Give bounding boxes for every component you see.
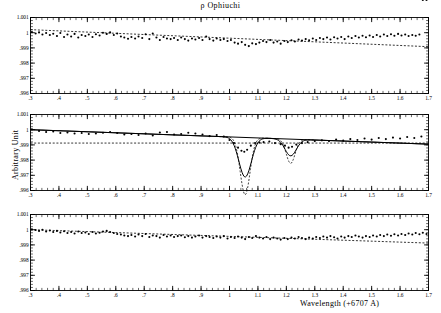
data-point: [321, 139, 323, 141]
data-point: [347, 235, 349, 237]
x-tick-label: 1: [220, 95, 240, 101]
data-point: [308, 39, 310, 41]
data-point: [392, 137, 394, 139]
data-point: [228, 139, 230, 141]
data-point: [258, 42, 260, 44]
data-point: [400, 233, 402, 235]
data-point: [173, 37, 175, 39]
x-tick-label: 1.2: [276, 292, 296, 298]
data-point: [177, 39, 179, 41]
x-axis-label: Wavelength (+6707 A): [300, 299, 379, 308]
figure-root: ρ Ophiuchi 1.0011.999.998.997.996.3.4.5.…: [0, 0, 441, 313]
data-point: [365, 36, 367, 38]
data-point: [123, 134, 125, 136]
x-tick-label: 1: [220, 292, 240, 298]
data-point: [81, 34, 83, 36]
x-tick-label: .9: [191, 95, 211, 101]
data-point: [102, 230, 104, 232]
data-point: [209, 38, 211, 40]
data-point: [418, 233, 420, 235]
data-point: [356, 139, 358, 141]
data-point: [273, 237, 275, 239]
x-tick-label: .4: [49, 292, 69, 298]
data-point: [241, 237, 243, 239]
data-point: [420, 135, 422, 137]
data-point: [328, 140, 330, 142]
data-point: [113, 232, 115, 234]
data-point: [102, 32, 104, 34]
y-tick-label: 1: [26, 127, 29, 133]
x-tick-label: .7: [134, 192, 154, 198]
data-point: [127, 235, 129, 237]
data-point: [326, 37, 328, 39]
data-point: [120, 234, 122, 236]
data-point: [237, 147, 239, 149]
data-point: [130, 36, 132, 38]
data-point: [301, 40, 303, 42]
data-point: [288, 147, 290, 149]
data-point: [56, 230, 58, 232]
y-axis-label: Arbitrary Unit: [11, 130, 20, 180]
data-point: [74, 232, 76, 234]
data-point: [294, 40, 296, 42]
data-point: [99, 232, 101, 234]
data-point: [312, 237, 314, 239]
data-point: [336, 237, 338, 239]
data-point: [209, 236, 211, 238]
data-point: [31, 128, 33, 130]
data-point: [312, 37, 314, 39]
data-point: [216, 134, 218, 136]
x-tick-label: .5: [77, 95, 97, 101]
data-point: [362, 237, 364, 239]
data-point: [130, 133, 132, 135]
data-point: [269, 39, 271, 41]
data-point: [415, 232, 417, 234]
data-point: [166, 37, 168, 39]
data-point: [246, 149, 248, 151]
data-point: [383, 235, 385, 237]
data-point: [201, 237, 203, 239]
data-point: [265, 41, 267, 43]
data-point: [243, 151, 245, 153]
data-point: [362, 35, 364, 37]
data-point: [258, 237, 260, 239]
data-point: [134, 235, 136, 237]
data-point: [127, 38, 129, 40]
data-point: [191, 237, 193, 239]
data-point: [326, 237, 328, 239]
data-point: [52, 231, 54, 233]
data-point: [413, 137, 415, 139]
data-point: [276, 237, 278, 239]
data-point: [109, 31, 111, 33]
data-point: [113, 34, 115, 36]
data-point: [404, 234, 406, 236]
x-tick-label: .4: [49, 192, 69, 198]
data-point: [351, 37, 353, 39]
y-tick-label: .998: [19, 157, 28, 163]
data-point: [378, 137, 380, 139]
data-point: [406, 136, 408, 138]
data-point: [198, 234, 200, 236]
data-point: [31, 31, 33, 33]
data-point: [358, 235, 360, 237]
data-point: [70, 35, 72, 37]
data-point: [400, 34, 402, 36]
x-tick-label: 1.1: [248, 192, 268, 198]
data-point: [52, 33, 54, 35]
data-point: [283, 40, 285, 42]
data-point: [258, 142, 260, 144]
data-point: [141, 37, 143, 39]
x-tick-label: 1.6: [390, 192, 410, 198]
data-point: [404, 33, 406, 35]
data-point: [194, 235, 196, 237]
data-point: [180, 37, 182, 39]
data-point: [333, 36, 335, 38]
data-point: [329, 235, 331, 237]
data-point: [305, 238, 307, 240]
data-point: [333, 236, 335, 238]
y-tick-label: .999: [19, 142, 28, 148]
data-point: [237, 43, 239, 45]
y-tick-label: 1.001: [17, 211, 29, 217]
data-point: [152, 32, 154, 34]
x-tick-label: .6: [106, 192, 126, 198]
